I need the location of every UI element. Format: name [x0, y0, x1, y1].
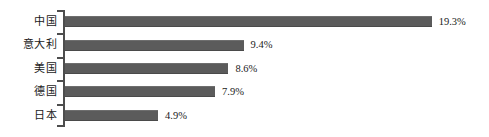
category-label: 日本: [0, 104, 57, 127]
bar-row: 意大利9.4%: [0, 33, 489, 56]
bar: [65, 110, 158, 121]
bar-track: 7.9%: [65, 80, 489, 103]
bar-row: 日本4.9%: [0, 104, 489, 127]
bar-row: 美国8.6%: [0, 57, 489, 80]
bar-track: 4.9%: [65, 104, 489, 127]
bar-track: 19.3%: [65, 10, 489, 33]
bar-track: 9.4%: [65, 33, 489, 56]
category-label: 美国: [0, 57, 57, 80]
category-label: 中国: [0, 10, 57, 33]
category-label: 德国: [0, 80, 57, 103]
bar-value-label: 4.9%: [165, 104, 187, 127]
bar: [65, 63, 228, 74]
bar-value-label: 7.9%: [222, 80, 244, 103]
bar-value-label: 19.3%: [439, 10, 466, 33]
bar-row: 德国7.9%: [0, 80, 489, 103]
horizontal-bar-chart: 中国19.3%意大利9.4%美国8.6%德国7.9%日本4.9%: [0, 0, 489, 137]
plot-area: 中国19.3%意大利9.4%美国8.6%德国7.9%日本4.9%: [0, 0, 489, 137]
bar: [65, 86, 215, 97]
bar-row: 中国19.3%: [0, 10, 489, 33]
bar: [65, 40, 244, 51]
bar-value-label: 8.6%: [235, 57, 257, 80]
bar: [65, 16, 432, 27]
bar-value-label: 9.4%: [251, 33, 273, 56]
category-label: 意大利: [0, 33, 57, 56]
bar-track: 8.6%: [65, 57, 489, 80]
